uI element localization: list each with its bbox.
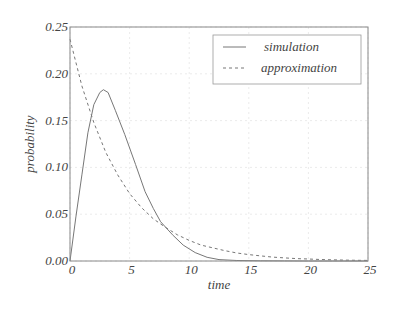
series-simulation xyxy=(70,90,368,261)
x-tick-label: 15 xyxy=(244,262,258,277)
y-axis-label: probability xyxy=(22,115,37,174)
x-tick-label: 0 xyxy=(69,262,76,277)
legend-label-approximation: approximation xyxy=(261,60,337,75)
x-tick-label: 5 xyxy=(128,262,135,277)
x-axis-label: time xyxy=(208,277,231,292)
x-tick-label: 20 xyxy=(304,262,318,277)
legend-label-simulation: simulation xyxy=(264,39,319,54)
line-chart: 0.000.050.100.150.200.25 0510152025 time… xyxy=(0,0,397,309)
y-axis-ticks: 0.000.050.100.150.200.25 xyxy=(45,19,68,268)
y-tick-label: 0.25 xyxy=(45,19,68,34)
x-tick-label: 25 xyxy=(364,262,378,277)
legend: simulation approximation xyxy=(213,35,361,84)
x-axis-ticks: 0510152025 xyxy=(69,262,377,277)
y-tick-label: 0.20 xyxy=(45,66,68,81)
x-tick-label: 10 xyxy=(185,262,199,277)
y-tick-label: 0.15 xyxy=(45,113,68,128)
y-tick-label: 0.05 xyxy=(45,206,68,221)
y-tick-label: 0.10 xyxy=(45,159,68,174)
y-tick-label: 0.00 xyxy=(45,253,68,268)
